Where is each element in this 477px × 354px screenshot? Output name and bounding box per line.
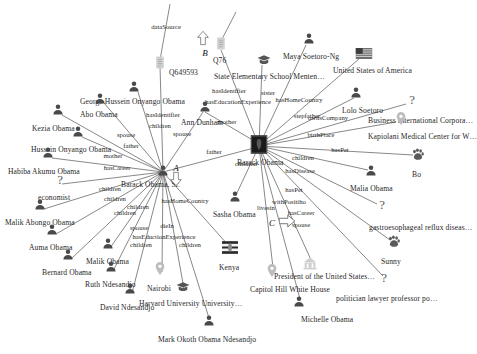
graph-canvas[interactable]: hasIdentifierchildrenspousefathermotherh… bbox=[0, 0, 477, 354]
graph-edge-label-children: children bbox=[292, 154, 314, 161]
graph-edge-label-hasIdentifier: hasIdentifier bbox=[146, 111, 180, 118]
graph-marker-c: C bbox=[269, 218, 275, 228]
graph-edge-label-hasPet: hasPet bbox=[285, 186, 302, 193]
document-icon bbox=[216, 37, 226, 53]
graph-edge-label-children: children bbox=[99, 185, 121, 192]
graph-node-abo-obama[interactable] bbox=[94, 92, 107, 108]
graph-node-label-ann-dunham: Ann Dunham bbox=[181, 118, 223, 127]
graph-node-malik-abongo-obama[interactable] bbox=[34, 198, 47, 214]
graph-node-kenya[interactable] bbox=[222, 241, 238, 257]
graph-edge-line bbox=[205, 112, 256, 142]
person-icon bbox=[52, 103, 65, 119]
graph-node-label-sasha-obama: Sasha Obama bbox=[213, 210, 256, 219]
graph-node-gastroesophageal[interactable]: ? bbox=[376, 197, 389, 215]
question-icon: ? bbox=[54, 172, 67, 190]
graph-marker-arrow-c-icon bbox=[279, 214, 295, 232]
graduation-cap-icon bbox=[176, 279, 190, 295]
graph-edge-label-children: children bbox=[149, 122, 171, 129]
graph-edge-label-dieIn: dieIn bbox=[160, 222, 174, 229]
graph-node-george-hussein-onyango-obama[interactable] bbox=[128, 80, 141, 96]
graph-node-label-malia-obama: Malia Obama bbox=[350, 184, 393, 193]
graph-node-bernard-obama[interactable] bbox=[62, 248, 75, 264]
graph-node-label-maya-soetoro-ng: Maya Soetoro-Ng bbox=[283, 52, 339, 61]
graph-node-united-states-of-america[interactable] bbox=[356, 46, 373, 62]
graph-node-bo[interactable] bbox=[411, 148, 425, 165]
graph-edge-label-children: children bbox=[179, 241, 201, 248]
graph-node-barack-obama[interactable] bbox=[251, 135, 268, 157]
person-icon bbox=[128, 80, 141, 96]
graph-node-label-bo: Bo bbox=[412, 170, 421, 179]
graph-edge-label-hasPet: hasPet bbox=[331, 146, 348, 153]
graph-node-david-ndesandjo[interactable] bbox=[124, 282, 137, 298]
graph-edge-label-hasIdentifier: hasIdentifier bbox=[212, 87, 246, 94]
graph-node-michelle-obama[interactable] bbox=[293, 295, 306, 311]
graph-node-maya-soetoro-ng[interactable] bbox=[303, 32, 316, 48]
graph-edge-line bbox=[259, 98, 354, 146]
svg-text:?: ? bbox=[57, 173, 63, 187]
graph-node-ruth-ndesandjo[interactable] bbox=[105, 260, 118, 276]
graph-marker-arrow-a-icon bbox=[170, 171, 182, 192]
graph-node-capitol-hill-white-house[interactable] bbox=[267, 264, 278, 281]
graph-node-label-nairobi: Nairobi bbox=[147, 284, 171, 293]
graph-marker-arrow-b-icon bbox=[197, 30, 209, 51]
graph-edge-label-hasHomeCountry: hasHomeCountry bbox=[161, 197, 208, 204]
kenya-flag-icon bbox=[222, 241, 238, 257]
graph-edge-label-children: children bbox=[130, 241, 152, 248]
person-icon bbox=[72, 125, 85, 141]
graph-node-label-united-states-of-america: United States of America bbox=[333, 66, 412, 75]
graph-edge-label-dataSource: dataSource bbox=[151, 23, 181, 30]
person-icon bbox=[203, 314, 216, 330]
graph-node-label-capitol-hill-white-house: Capitol Hill White House bbox=[250, 285, 330, 294]
graph-node-sunny[interactable] bbox=[387, 235, 401, 252]
graph-edge-label-father: father bbox=[123, 142, 139, 149]
person-icon bbox=[62, 248, 75, 264]
graph-node-q76[interactable] bbox=[216, 37, 226, 53]
graph-node-label-malik-abongo-obama: Malik Abongo Obama bbox=[5, 218, 75, 227]
person-icon bbox=[199, 100, 212, 116]
question-icon: ? bbox=[406, 92, 419, 110]
graph-node-sasha-obama[interactable] bbox=[229, 190, 242, 206]
graph-node-malik-obama[interactable] bbox=[102, 237, 115, 253]
graph-node-state-elementary-school[interactable] bbox=[257, 52, 271, 68]
graph-node-label-abo-obama: Abo Obama bbox=[80, 110, 118, 119]
person-icon bbox=[34, 198, 47, 214]
graph-node-harvard-university[interactable] bbox=[176, 279, 190, 295]
paw-icon bbox=[387, 235, 401, 252]
graph-edge-label-sister: sister bbox=[261, 89, 275, 96]
graph-node-label-harvard-university: Harvard University University… bbox=[139, 299, 242, 308]
portrait-thumbnail bbox=[251, 135, 268, 157]
graph-node-nairobi[interactable] bbox=[155, 262, 166, 279]
graph-node-kapiolani-medical-center[interactable] bbox=[396, 112, 407, 129]
graph-node-label-lolo-soetoro: Lolo Soetoro bbox=[342, 106, 383, 115]
institution-icon bbox=[303, 257, 317, 273]
graph-node-hussein-onyango-obama[interactable] bbox=[72, 125, 85, 141]
graph-edge-label-father: father bbox=[206, 148, 222, 155]
person-icon bbox=[293, 295, 306, 311]
graph-node-business-international[interactable]: ? bbox=[406, 92, 419, 110]
graph-node-kezia-obama[interactable] bbox=[52, 103, 65, 119]
graph-node-malia-obama[interactable] bbox=[365, 164, 378, 180]
graph-node-president-of-the-us[interactable] bbox=[303, 257, 317, 273]
graph-node-habiba-akumu-obama[interactable] bbox=[42, 146, 55, 162]
svg-text:?: ? bbox=[379, 198, 385, 212]
graph-node-label-politician-lawyer: politician lawyer professor po… bbox=[336, 294, 438, 303]
svg-text:?: ? bbox=[409, 93, 415, 107]
graph-node-barack-obama-sr[interactable] bbox=[157, 164, 170, 180]
graph-node-label-state-elementary-school: State Elementary School Menten… bbox=[214, 72, 325, 81]
person-icon bbox=[124, 282, 137, 298]
person-icon bbox=[105, 260, 118, 276]
location-pin-icon bbox=[267, 264, 278, 281]
graph-edge-label-spouse: spouse bbox=[117, 131, 135, 138]
graph-node-economist[interactable]: ? bbox=[54, 172, 67, 190]
graph-edge-line bbox=[160, 66, 163, 172]
graph-node-lolo-soetoro[interactable] bbox=[350, 86, 363, 102]
person-icon bbox=[42, 146, 55, 162]
graph-node-mark-okoth-obama-ndesandjo[interactable] bbox=[203, 314, 216, 330]
graph-node-politician-lawyer[interactable]: ? bbox=[378, 270, 391, 288]
person-icon bbox=[350, 86, 363, 102]
graph-node-q649593[interactable] bbox=[155, 56, 165, 72]
graph-node-ann-dunham[interactable] bbox=[199, 100, 212, 116]
document-icon bbox=[155, 56, 165, 72]
graph-node-auma-obama[interactable] bbox=[46, 223, 59, 239]
graph-node-label-president-of-the-us: President of the United States… bbox=[274, 272, 375, 281]
